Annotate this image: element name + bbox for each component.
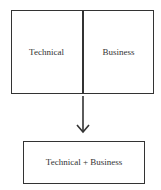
arrow-down-icon [72,94,94,136]
business-label: Business [83,47,154,57]
technical-label: Technical [11,47,82,57]
combined-label: Technical + Business [23,157,145,167]
